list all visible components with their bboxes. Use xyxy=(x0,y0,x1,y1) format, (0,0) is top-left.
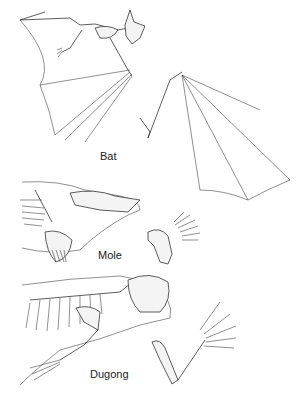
illustration-canvas xyxy=(0,0,298,400)
label-mole: Mole xyxy=(98,249,122,261)
bat-skeleton xyxy=(20,10,290,200)
label-dugong: Dugong xyxy=(90,368,129,380)
label-bat: Bat xyxy=(100,150,117,162)
